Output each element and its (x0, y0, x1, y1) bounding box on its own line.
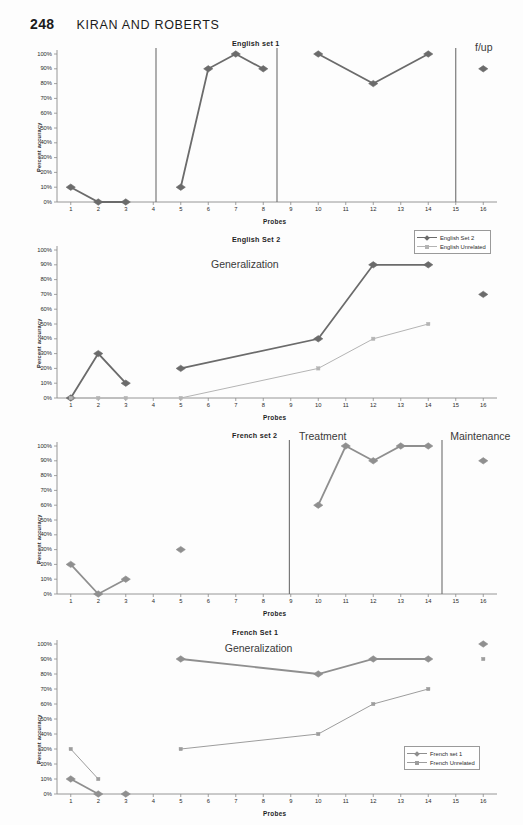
page-number: 248 (30, 16, 55, 32)
diamond-marker-icon (407, 750, 427, 757)
legend-item: French Unrelated (407, 758, 475, 767)
square-marker-icon (417, 243, 437, 250)
legend-item: French set 1 (407, 749, 475, 758)
diamond-marker-icon (417, 234, 437, 241)
chart-legend: English Set 2English Unrelated (414, 230, 491, 254)
figure-french-set-2: French set 2Percent accuracyProbes100%90… (0, 424, 523, 616)
chart-canvas (0, 424, 523, 616)
chart-canvas (0, 32, 523, 224)
chart-legend: French set 1French Unrelated (404, 746, 480, 770)
legend-label: French set 1 (430, 751, 462, 757)
legend-label: English Set 2 (440, 235, 474, 241)
legend-item: English Unrelated (417, 242, 486, 251)
page-header: 248 KIRAN AND ROBERTS (30, 16, 220, 32)
figure-french-set-1: French Set 1Percent accuracyProbes100%90… (0, 618, 523, 818)
figure-english-set-2: English Set 2Percent accuracyProbes100%9… (0, 228, 523, 420)
legend-item: English Set 2 (417, 233, 486, 242)
chart-canvas (0, 228, 523, 420)
running-head: KIRAN AND ROBERTS (77, 18, 220, 32)
figure-english-set-1: English set 1Percent accuracyProbes100%9… (0, 32, 523, 224)
chart-canvas (0, 618, 523, 818)
square-marker-icon (407, 759, 427, 766)
legend-label: English Unrelated (440, 244, 486, 250)
legend-label: French Unrelated (430, 760, 475, 766)
